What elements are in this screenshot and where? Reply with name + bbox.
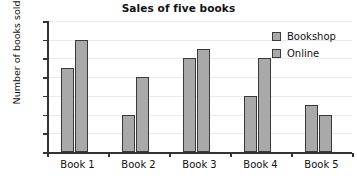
x-tick-label: Book 5 xyxy=(289,159,355,170)
gridline xyxy=(47,21,352,22)
bar xyxy=(305,105,318,152)
legend-label: Bookshop xyxy=(287,31,336,42)
x-tick-label: Book 3 xyxy=(167,159,233,170)
bar xyxy=(122,115,135,152)
bar xyxy=(61,68,74,152)
bar xyxy=(75,40,88,152)
bar xyxy=(136,77,149,152)
bar-chart: Sales of five books Number of books sold… xyxy=(0,0,357,178)
x-tick-mark xyxy=(108,153,110,157)
y-tick-mark xyxy=(43,77,47,79)
chart-title: Sales of five books xyxy=(0,2,357,14)
y-tick-mark xyxy=(43,115,47,117)
legend-item: Bookshop xyxy=(272,30,336,43)
bar xyxy=(183,58,196,152)
y-tick-mark xyxy=(43,133,47,135)
bar xyxy=(258,58,271,152)
bar xyxy=(244,96,257,152)
bar xyxy=(197,49,210,152)
x-tick-mark xyxy=(291,153,293,157)
y-tick-mark xyxy=(43,21,47,23)
x-axis-line xyxy=(47,152,352,154)
x-tick-mark xyxy=(47,153,49,157)
legend-swatch-icon xyxy=(272,49,281,58)
y-tick-mark xyxy=(43,40,47,42)
x-tick-mark xyxy=(230,153,232,157)
x-tick-label: Book 2 xyxy=(106,159,172,170)
y-axis-title: Number of books sold xyxy=(11,0,22,123)
chart-legend: BookshopOnline xyxy=(272,30,336,64)
x-tick-label: Book 4 xyxy=(228,159,294,170)
legend-item: Online xyxy=(272,47,336,60)
x-tick-mark xyxy=(169,153,171,157)
y-tick-mark xyxy=(43,96,47,98)
legend-label: Online xyxy=(287,48,319,59)
y-axis-line xyxy=(47,21,49,153)
bar xyxy=(319,115,332,152)
x-tick-mark xyxy=(352,153,354,157)
x-tick-label: Book 1 xyxy=(45,159,111,170)
y-tick-mark xyxy=(43,58,47,60)
legend-swatch-icon xyxy=(272,32,281,41)
